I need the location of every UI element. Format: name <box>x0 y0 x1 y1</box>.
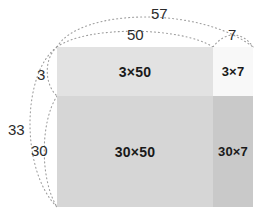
cell-30x7-label: 30×7 <box>218 144 248 159</box>
dimension-label-left-total: 33 <box>8 122 25 137</box>
cell-3x7[interactable]: 3×7 <box>213 47 253 96</box>
dimension-label-top-total: 57 <box>151 6 168 21</box>
area-model-figure: 3×50 3×7 30×50 30×7 57 50 7 3 33 30 <box>0 0 259 216</box>
dimension-label-left-bottom: 30 <box>31 143 48 158</box>
dimension-label-top-right: 7 <box>228 27 236 42</box>
cell-3x50[interactable]: 3×50 <box>57 47 213 96</box>
cell-3x50-label: 3×50 <box>119 64 151 80</box>
cell-30x7[interactable]: 30×7 <box>213 96 253 207</box>
cell-3x7-label: 3×7 <box>222 64 245 79</box>
dimension-label-left-top: 3 <box>37 67 45 82</box>
cell-30x50-label: 30×50 <box>115 144 155 160</box>
cell-30x50[interactable]: 30×50 <box>57 96 213 207</box>
dimension-label-top-left: 50 <box>127 27 144 42</box>
